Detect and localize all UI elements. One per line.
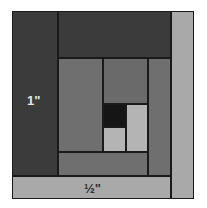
inner-right-strip bbox=[148, 58, 171, 176]
narrow-strip-label: ½" bbox=[84, 182, 101, 195]
right-outer-strip bbox=[171, 11, 194, 199]
center-dark-square bbox=[103, 104, 126, 127]
inner-top-block bbox=[103, 58, 148, 104]
wide-strip-label: 1" bbox=[27, 94, 40, 107]
inner-left-block bbox=[58, 58, 103, 152]
inner-bottom-strip bbox=[58, 152, 148, 176]
center-light-square bbox=[103, 127, 126, 152]
top-outer-strip bbox=[58, 11, 171, 58]
center-right-light bbox=[126, 104, 148, 152]
